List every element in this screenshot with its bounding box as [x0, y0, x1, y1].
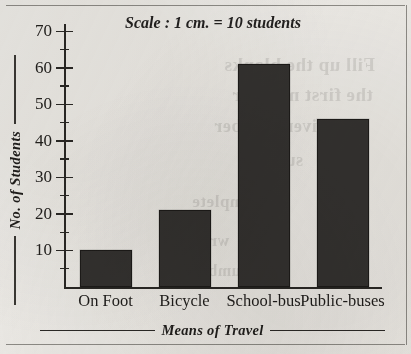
bar-public-buses — [317, 119, 369, 287]
y-tick-minor-45 — [60, 122, 69, 123]
x-axis-line — [64, 287, 382, 289]
scanned-page: Fill up the blanksthe first numberthe gi… — [0, 0, 411, 354]
y-tick-label-70: 70 — [12, 22, 52, 39]
y-tick-major-40 — [56, 140, 73, 141]
y-tick-major-10 — [56, 250, 73, 251]
x-category-label-public-buses: Public-buses — [297, 292, 388, 310]
y-tick-minor-25 — [60, 195, 69, 196]
y-axis-title-group: No. of Students — [2, 55, 28, 305]
x-axis-title: Means of Travel — [161, 322, 263, 339]
bar-chart: Scale : 1 cm. = 10 students 102030405060… — [0, 0, 411, 354]
y-tick-minor-35 — [60, 158, 69, 159]
bar-school-bus — [238, 64, 290, 287]
y-tick-major-70 — [56, 31, 73, 32]
x-category-label-on-foot: On Foot — [60, 292, 151, 310]
x-axis-title-group: Means of Travel — [40, 322, 385, 339]
y-axis-title: No. of Students — [7, 131, 24, 229]
x-axis-title-rule-right — [270, 330, 385, 331]
y-tick-minor-55 — [60, 85, 69, 86]
y-axis-line — [64, 24, 66, 288]
y-tick-major-30 — [56, 177, 73, 178]
y-tick-minor-15 — [60, 232, 69, 233]
y-tick-major-20 — [56, 213, 73, 214]
y-tick-minor-65 — [60, 49, 69, 50]
y-tick-minor-5 — [60, 268, 69, 269]
y-axis-title-rule-top — [14, 55, 15, 124]
y-tick-major-60 — [56, 67, 73, 68]
y-axis-title-rule-bottom — [14, 236, 15, 305]
bar-bicycle — [159, 210, 211, 287]
y-tick-major-50 — [56, 104, 73, 105]
bar-on-foot — [80, 250, 132, 287]
chart-title: Scale : 1 cm. = 10 students — [97, 14, 329, 32]
x-axis-title-rule-left — [40, 330, 155, 331]
x-category-label-bicycle: Bicycle — [139, 292, 230, 310]
x-category-label-school-bus: School-bus — [218, 292, 309, 310]
